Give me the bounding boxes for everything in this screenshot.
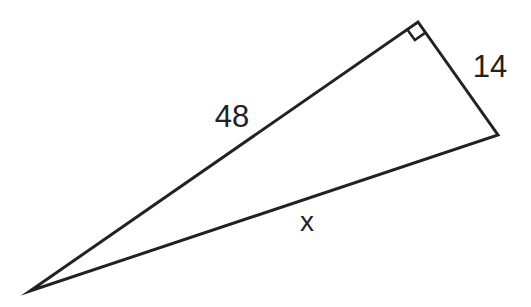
side-label-48: 48 bbox=[215, 99, 249, 134]
triangle-outline bbox=[30, 22, 498, 291]
side-label-14: 14 bbox=[473, 49, 507, 84]
side-label-x: x bbox=[300, 206, 314, 237]
right-triangle-figure: 48 14 x bbox=[0, 0, 531, 307]
right-triangle-diagram: 48 14 x bbox=[0, 0, 531, 307]
